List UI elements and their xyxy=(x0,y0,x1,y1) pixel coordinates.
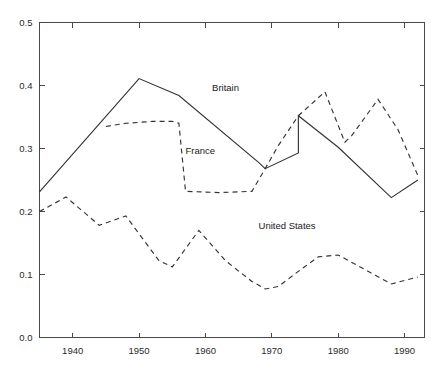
y-axis-tick-labels: 0.00.10.20.30.40.5 xyxy=(19,17,32,343)
chart-series-lines xyxy=(40,79,418,289)
y-axis-label: 0.1 xyxy=(19,269,32,280)
series-label-france: France xyxy=(186,145,216,156)
line-chart: 0.00.10.20.30.40.5 194019501960197019801… xyxy=(0,0,443,377)
x-axis-tick-labels: 194019501960197019801990 xyxy=(62,345,415,356)
x-axis-label: 1950 xyxy=(128,345,149,356)
chart-axes xyxy=(40,23,425,338)
x-axis-label: 1990 xyxy=(394,345,415,356)
y-axis-label: 0.2 xyxy=(19,206,32,217)
y-axis-label: 0.3 xyxy=(19,143,32,154)
series-line-france xyxy=(106,92,418,193)
x-axis-label: 1960 xyxy=(195,345,216,356)
chart-tick-marks xyxy=(40,23,425,338)
y-axis-label: 0.4 xyxy=(19,80,32,91)
chart-figure: 0.00.10.20.30.40.5 194019501960197019801… xyxy=(0,0,443,377)
axis-frame xyxy=(40,23,425,338)
series-label-britain: Britain xyxy=(212,82,239,93)
series-line-united-states xyxy=(40,197,418,289)
x-axis-label: 1940 xyxy=(62,345,83,356)
y-axis-label: 0.5 xyxy=(19,17,32,28)
y-axis-label: 0.0 xyxy=(19,332,32,343)
series-label-united-states: United States xyxy=(259,220,316,231)
x-axis-label: 1980 xyxy=(328,345,349,356)
x-axis-label: 1970 xyxy=(261,345,282,356)
series-line-britain xyxy=(40,79,418,198)
